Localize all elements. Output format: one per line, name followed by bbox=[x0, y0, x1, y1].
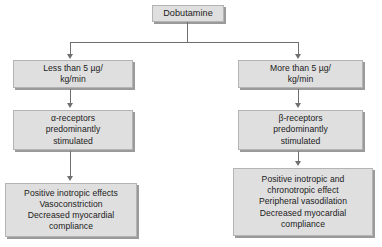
node-right-receptor: β-receptors predominantly stimulated bbox=[238, 110, 363, 150]
connector-left-dose-to-receptor bbox=[70, 89, 71, 104]
arrowhead-left-receptor bbox=[67, 103, 73, 108]
arrowhead-right-dose bbox=[295, 54, 301, 59]
arrowhead-right-receptor bbox=[295, 103, 301, 108]
arrowhead-left-effects bbox=[67, 176, 73, 181]
connector-right-dose-to-receptor bbox=[298, 89, 299, 104]
arrowhead-right-effects bbox=[295, 161, 301, 166]
node-right-dose: More than 5 µg/ kg/min bbox=[238, 60, 363, 88]
connector-left-receptor-to-effects bbox=[70, 151, 71, 177]
node-left-receptor: α-receptors predominantly stimulated bbox=[13, 110, 133, 150]
node-left-effects: Positive inotropic effects Vasoconstrict… bbox=[5, 183, 137, 237]
node-right-effects: Positive inotropic and chronotropic effe… bbox=[233, 168, 373, 236]
flowchart-canvas: Dobutamine Less than 5 µg/ kg/min More t… bbox=[0, 0, 382, 247]
node-left-dose: Less than 5 µg/ kg/min bbox=[13, 60, 133, 88]
connector-root-stem bbox=[187, 22, 188, 42]
arrowhead-left-dose bbox=[67, 54, 73, 59]
connector-branch-bar bbox=[70, 42, 298, 43]
node-dobutamine: Dobutamine bbox=[152, 5, 224, 22]
